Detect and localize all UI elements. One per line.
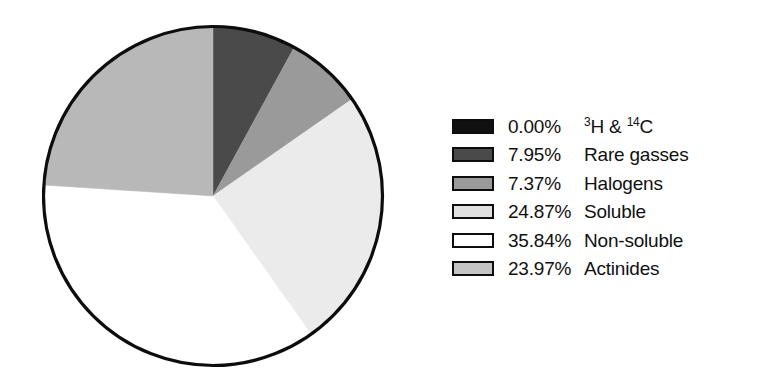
legend-swatch <box>452 261 494 276</box>
legend-item[interactable]: 24.87%Soluble <box>452 198 762 227</box>
legend-percent: 35.84% <box>508 231 584 250</box>
legend-label: Actinides <box>584 259 659 278</box>
legend-label: 3H & 14C <box>584 117 653 136</box>
pie-chart-figure: 0.00%3H & 14C7.95%Rare gasses7.37%Haloge… <box>0 0 769 390</box>
legend-percent: 7.95% <box>508 145 584 164</box>
legend-percent: 0.00% <box>508 117 584 136</box>
legend-swatch <box>452 147 494 162</box>
legend-percent: 7.37% <box>508 174 584 193</box>
legend-item[interactable]: 0.00%3H & 14C <box>452 112 762 141</box>
isotope-mass-number: 14 <box>627 115 640 129</box>
legend-item[interactable]: 7.95%Rare gasses <box>452 141 762 170</box>
pie-svg <box>42 24 386 370</box>
legend-percent: 23.97% <box>508 259 584 278</box>
legend-label: Soluble <box>584 202 646 221</box>
legend-swatch <box>452 176 494 191</box>
chart-legend: 0.00%3H & 14C7.95%Rare gasses7.37%Haloge… <box>452 112 762 283</box>
legend-label: Rare gasses <box>584 145 688 164</box>
legend-item[interactable]: 23.97%Actinides <box>452 255 762 284</box>
pie-chart-graphic <box>42 24 386 370</box>
legend-item[interactable]: 35.84%Non-soluble <box>452 226 762 255</box>
pie-slice-actinides[interactable] <box>43 26 213 196</box>
legend-swatch <box>452 204 494 219</box>
legend-swatch <box>452 233 494 248</box>
legend-percent: 24.87% <box>508 202 584 221</box>
legend-label: Halogens <box>584 174 663 193</box>
legend-item[interactable]: 7.37%Halogens <box>452 169 762 198</box>
legend-swatch <box>452 119 494 134</box>
isotope-mass-number: 3 <box>584 115 590 129</box>
legend-label: Non-soluble <box>584 231 683 250</box>
